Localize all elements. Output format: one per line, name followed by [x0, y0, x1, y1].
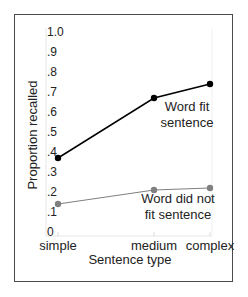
data-point	[151, 95, 157, 101]
y-tick-label: .7	[47, 85, 57, 99]
y-tick-label: .8	[47, 65, 57, 79]
y-tick-label: .6	[47, 105, 57, 119]
series-label: sentence	[161, 115, 214, 130]
y-tick-label: .3	[47, 165, 57, 179]
x-tick-label: complex	[186, 238, 235, 253]
x-tick-label: simple	[39, 238, 77, 253]
y-tick-label: .5	[47, 125, 57, 139]
y-tick-label: 0	[47, 225, 54, 239]
data-point	[207, 81, 213, 87]
y-axis-label: Proportion recalled	[25, 80, 40, 189]
y-tick-label: 1.0	[47, 25, 64, 39]
y-tick-label: .2	[47, 185, 57, 199]
x-axis: simplemediumcomplex	[39, 232, 234, 253]
y-tick-label: .1	[47, 205, 57, 219]
series-label: fit sentence	[145, 207, 212, 222]
series-label: Word did not	[141, 191, 215, 206]
series-lines: Word fitsentenceWord did notfit sentence	[55, 81, 215, 222]
data-point	[55, 201, 61, 207]
series-label: Word fit	[165, 99, 210, 114]
data-point	[55, 155, 61, 161]
line-chart: 0.1.2.3.4.5.6.7.8.91.0 simplemediumcompl…	[0, 0, 248, 297]
x-tick-label: medium	[131, 238, 177, 253]
y-tick-label: .9	[47, 45, 57, 59]
x-axis-label: Sentence type	[88, 252, 171, 267]
